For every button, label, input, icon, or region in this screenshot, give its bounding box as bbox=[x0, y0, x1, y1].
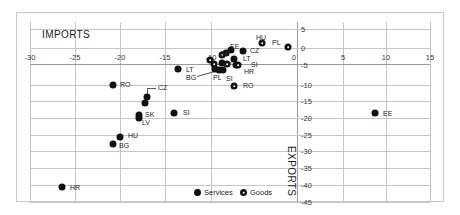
point-services-hr bbox=[59, 184, 66, 191]
y-tick-5: 5 bbox=[301, 25, 305, 34]
label-si-cluster: SI bbox=[226, 75, 233, 82]
gridline-x--15 bbox=[165, 22, 166, 202]
point-services-si-cluster bbox=[220, 67, 227, 74]
label-sk-left: SK bbox=[145, 111, 154, 118]
label-ee-cluster: EE bbox=[230, 43, 239, 50]
x-tick--25: -25 bbox=[70, 53, 81, 62]
label-hu-left: HU bbox=[128, 132, 138, 139]
y-tick--10: -10 bbox=[301, 81, 312, 90]
label-pl-top: PL bbox=[272, 39, 281, 46]
point-goods-ro bbox=[231, 83, 238, 90]
label-si-left: SI bbox=[183, 109, 190, 116]
y-tick--45: -45 bbox=[301, 198, 312, 207]
legend-item-goods[interactable]: Goods bbox=[240, 188, 272, 197]
point-services-lt-left bbox=[175, 66, 182, 73]
x-tick--30: -30 bbox=[25, 53, 36, 62]
x-tick-0: 0 bbox=[292, 53, 296, 62]
gridline-y--30 bbox=[30, 151, 430, 152]
point-goods-cluster-e bbox=[211, 61, 218, 68]
legend-label-services: Services bbox=[204, 188, 233, 197]
y-tick--20: -20 bbox=[301, 114, 312, 123]
scatter-plot-area: IMPORTS EXPORTS -30 -25 -20 -15 -10 0 5 … bbox=[0, 0, 460, 215]
y-tick--5: -5 bbox=[301, 61, 308, 70]
label-cz-cluster: CZ bbox=[250, 47, 259, 54]
label-pl-cluster: PL bbox=[213, 74, 222, 81]
x-tick--20: -20 bbox=[115, 53, 126, 62]
legend-item-services[interactable]: Services bbox=[194, 188, 233, 197]
label-lt-cluster: LT bbox=[243, 55, 251, 62]
point-goods-cluster-b bbox=[235, 62, 242, 69]
legend-label-goods: Goods bbox=[250, 188, 272, 197]
point-services-cz-lower bbox=[142, 100, 149, 107]
point-services-bg bbox=[110, 141, 117, 148]
y-tick--35: -35 bbox=[301, 164, 312, 173]
legend-marker-services bbox=[194, 189, 201, 196]
point-services-cz-cluster bbox=[240, 48, 247, 55]
point-goods-pl bbox=[285, 44, 292, 51]
label-lt-left: LT bbox=[186, 66, 194, 73]
gridline-x--25 bbox=[75, 22, 76, 202]
label-lv-left: LV bbox=[142, 119, 150, 126]
label-lv-cluster: LV bbox=[224, 60, 232, 67]
leader-line-cz-horizontal bbox=[147, 88, 156, 89]
x-axis-title: IMPORTS bbox=[42, 29, 90, 40]
gridline-y--40 bbox=[30, 185, 430, 186]
y-tick--30: -30 bbox=[301, 147, 312, 156]
gridline-x--10 bbox=[211, 22, 212, 202]
label-bg-left: BG bbox=[119, 142, 129, 149]
chart-screenshot: IMPORTS EXPORTS -30 -25 -20 -15 -10 0 5 … bbox=[0, 0, 460, 215]
gridline-x-5 bbox=[343, 22, 344, 202]
label-ro-cluster: RO bbox=[243, 82, 254, 89]
label-s-cluster: SI bbox=[251, 61, 258, 68]
y-tick--40: -40 bbox=[301, 181, 312, 190]
point-services-hu bbox=[117, 134, 124, 141]
y-tick--15: -15 bbox=[301, 97, 312, 106]
gridline-x-15 bbox=[430, 22, 431, 202]
label-cz-left: CZ bbox=[158, 84, 167, 91]
gridline-x--30 bbox=[30, 22, 31, 202]
gridline-y--15 bbox=[30, 101, 430, 102]
x-tick-10: 10 bbox=[382, 53, 390, 62]
label-ro-left: RO bbox=[120, 81, 131, 88]
y-axis-title: EXPORTS bbox=[286, 146, 297, 196]
label-hr-cluster: HR bbox=[244, 68, 254, 75]
legend-marker-goods bbox=[240, 189, 247, 196]
y-tick-0: 0 bbox=[301, 44, 305, 53]
y-tick--25: -25 bbox=[301, 131, 312, 140]
point-services-ro bbox=[110, 82, 117, 89]
y-axis-line bbox=[297, 22, 298, 202]
gridline-y--35 bbox=[30, 168, 430, 169]
label-hu-top: HU bbox=[256, 34, 266, 41]
point-services-si bbox=[171, 110, 178, 117]
label-bg-leader: BG bbox=[186, 74, 196, 81]
label-hr-bottom: HR bbox=[70, 184, 80, 191]
x-tick--15: -15 bbox=[160, 53, 171, 62]
gridline-y--20 bbox=[30, 118, 430, 119]
gridline-y--25 bbox=[30, 135, 430, 136]
x-tick-15: 15 bbox=[426, 53, 434, 62]
label-ee-right: EE bbox=[383, 110, 392, 117]
gridline-x--20 bbox=[120, 22, 121, 202]
label-sk-cluster: SK bbox=[220, 50, 229, 57]
x-tick-5: 5 bbox=[341, 53, 345, 62]
gridline-y--45 bbox=[30, 202, 430, 203]
point-services-ee-right bbox=[372, 110, 379, 117]
